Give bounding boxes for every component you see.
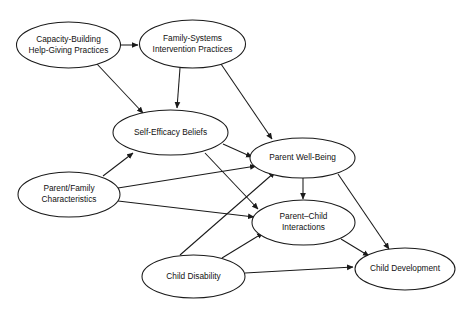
node-child_development[interactable]: Child Development — [355, 248, 455, 290]
node-label-child_disability: Child Disability — [166, 271, 221, 281]
node-label-child_development: Child Development — [370, 263, 441, 273]
node-label-family_systems: Family-Systems — [163, 33, 222, 43]
node-label-parent_family: Parent/Family — [43, 183, 95, 193]
edge-arrow-parent_child-to-child_development — [341, 239, 369, 256]
node-capacity_building[interactable]: Capacity-BuildingHelp-Giving Practices — [17, 22, 121, 68]
node-label-parent_family: Characteristics — [42, 194, 97, 204]
path-model-diagram: Capacity-BuildingHelp-Giving PracticesFa… — [0, 0, 464, 316]
node-label-family_systems: Intervention Practices — [153, 44, 233, 54]
node-parent_wellbeing[interactable]: Parent Well-Being — [250, 138, 355, 178]
edge-arrow-family_systems-to-self_efficacy — [177, 68, 180, 108]
node-label-parent_wellbeing: Parent Well-Being — [269, 152, 336, 162]
edge-arrow-capacity_building-to-self_efficacy — [97, 64, 143, 113]
edge-arrow-child_disability-to-parent_child — [222, 233, 263, 258]
edge-arrow-self_efficacy-to-parent_wellbeing — [223, 144, 252, 157]
node-parent_family[interactable]: Parent/FamilyCharacteristics — [18, 172, 120, 217]
edge-arrow-child_disability-to-child_development — [245, 267, 353, 273]
diagram-canvas: Capacity-BuildingHelp-Giving PracticesFa… — [0, 0, 464, 316]
node-label-parent_child: Interactions — [282, 222, 325, 232]
node-family_systems[interactable]: Family-SystemsIntervention Practices — [140, 20, 246, 68]
edge-arrow-family_systems-to-parent_wellbeing — [221, 64, 272, 139]
node-label-capacity_building: Capacity-Building — [36, 34, 101, 44]
node-child_disability[interactable]: Child Disability — [142, 255, 245, 298]
nodes-layer: Capacity-BuildingHelp-Giving PracticesFa… — [17, 20, 456, 298]
node-self_efficacy[interactable]: Self-Efficacy Beliefs — [113, 110, 228, 155]
node-label-self_efficacy: Self-Efficacy Beliefs — [134, 127, 207, 137]
node-label-parent_child: Parent–Child — [280, 211, 328, 221]
node-label-capacity_building: Help-Giving Practices — [29, 45, 109, 55]
edge-arrow-parent_family-to-parent_child — [118, 201, 254, 217]
edge-arrow-parent_family-to-self_efficacy — [103, 153, 133, 176]
node-parent_child[interactable]: Parent–ChildInteractions — [252, 200, 355, 245]
edge-arrow-self_efficacy-to-parent_child — [205, 153, 258, 209]
